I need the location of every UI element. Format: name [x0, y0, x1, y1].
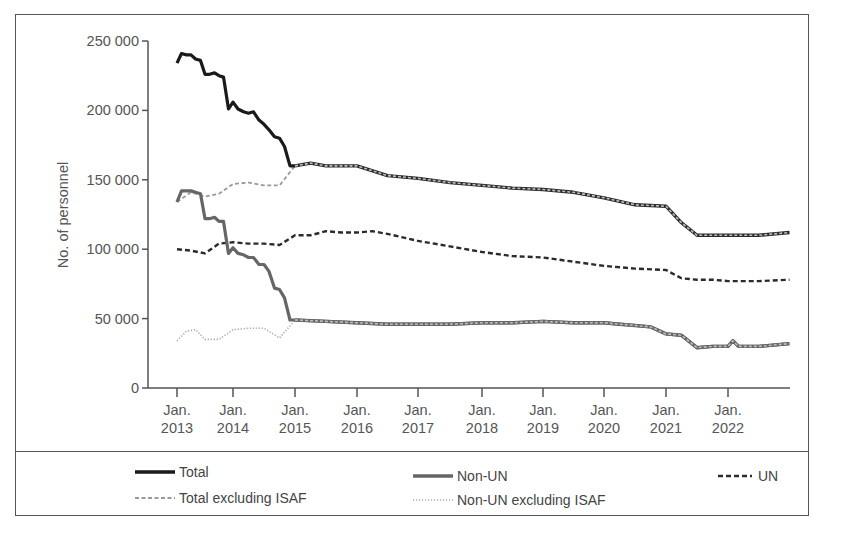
y-tick-label: 250 000: [87, 33, 139, 49]
series-line-total: [177, 54, 295, 166]
y-tick-label: 0: [131, 380, 139, 396]
series-line-total-excluding-isaf: [177, 163, 790, 235]
series-layer: [177, 54, 790, 348]
legend-label-non-un-excluding-isaf: Non-UN excluding ISAF: [457, 492, 606, 508]
dashed-line-icon: [718, 471, 754, 481]
solid-gray-line-icon: [413, 471, 453, 481]
series-line-overlap: [295, 163, 790, 235]
x-tick-label: 2019: [527, 420, 559, 436]
x-tick-label: Jan.: [652, 402, 679, 418]
legend-label-total: Total: [179, 464, 209, 480]
x-tick-label: Jan.: [404, 402, 431, 418]
y-tick-label: 200 000: [87, 102, 139, 118]
legend-item-non-un-excluding-isaf: Non-UN excluding ISAF: [413, 492, 606, 508]
legend-item-un: UN: [718, 468, 778, 484]
x-tick-label: Jan.: [529, 402, 556, 418]
x-tick-label: 2014: [217, 420, 249, 436]
x-tick-label: 2020: [588, 420, 620, 436]
y-tick-label: 100 000: [87, 241, 139, 257]
legend-item-total-excluding-isaf: Total excluding ISAF: [135, 490, 307, 506]
x-tick-label: Jan.: [468, 402, 495, 418]
x-tick-label: Jan.: [163, 402, 190, 418]
y-tick-label: 50 000: [95, 311, 139, 327]
x-tick-label: Jan.: [219, 402, 246, 418]
y-axis-title: No. of personnel: [55, 162, 71, 268]
legend-item-total: Total: [135, 464, 209, 480]
series-line-non-un-excluding-isaf: [177, 320, 295, 341]
x-tick-label: Jan.: [343, 402, 370, 418]
x-tick-label: 2015: [279, 420, 311, 436]
line-chart: 050 000100 000150 000200 000250 000 Jan.…: [0, 0, 868, 452]
legend: Total Non-UN UN Total excluding ISAF Non…: [15, 452, 809, 516]
x-tick-label: 2018: [466, 420, 498, 436]
x-tick-label: 2022: [712, 420, 744, 436]
y-axis: 050 000100 000150 000200 000250 000: [87, 33, 148, 396]
x-axis: Jan.2013Jan.2014Jan.2015Jan.2016Jan.2017…: [148, 388, 790, 436]
y-tick-label: 150 000: [87, 172, 139, 188]
dashed-gray-line-icon: [135, 493, 175, 503]
legend-label-non-un: Non-UN: [457, 468, 508, 484]
dotted-line-icon: [413, 495, 453, 505]
legend-label-total-excluding-isaf: Total excluding ISAF: [179, 490, 307, 506]
x-tick-label: 2017: [402, 420, 434, 436]
x-tick-label: Jan.: [281, 402, 308, 418]
legend-label-un: UN: [758, 468, 778, 484]
legend-item-non-un: Non-UN: [413, 468, 508, 484]
solid-line-icon: [135, 467, 175, 477]
x-tick-label: Jan.: [590, 402, 617, 418]
x-tick-label: 2013: [161, 420, 193, 436]
series-line-overlap: [295, 320, 790, 348]
x-tick-label: 2016: [341, 420, 373, 436]
x-tick-label: 2021: [650, 420, 682, 436]
x-tick-label: Jan.: [714, 402, 741, 418]
series-line-overlap-dash: [295, 163, 790, 235]
